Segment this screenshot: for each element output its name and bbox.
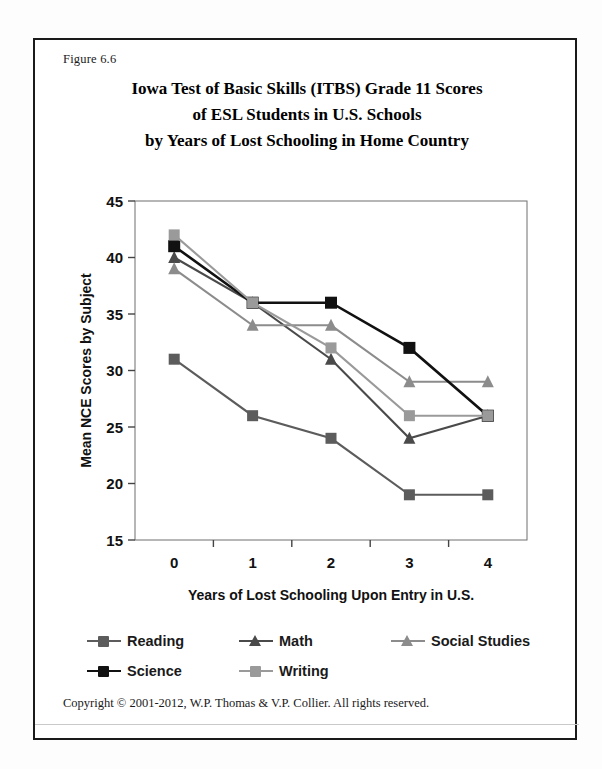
- legend-key-marker: [249, 635, 261, 646]
- legend-item-reading[interactable]: Reading: [87, 633, 239, 649]
- legend-key-square-icon: [87, 634, 121, 648]
- data-point-marker: [482, 489, 493, 500]
- legend-key-marker: [401, 635, 413, 646]
- data-point-marker: [168, 251, 180, 263]
- legend-key-triangle-icon: [391, 634, 425, 648]
- y-axis-tick-label: 15: [106, 532, 123, 549]
- data-point-marker: [404, 489, 415, 500]
- footer-divider: [35, 724, 579, 725]
- x-axis-tick-label: 4: [484, 554, 493, 571]
- legend-item-writing[interactable]: Writing: [239, 663, 391, 679]
- legend-key-marker: [98, 636, 109, 647]
- y-axis-tick-label: 20: [106, 475, 123, 492]
- legend-label: Social Studies: [431, 633, 530, 649]
- data-point-marker: [403, 342, 415, 354]
- chart-legend: ReadingMathSocial StudiesScienceWriting: [87, 626, 557, 686]
- x-axis-tick-label: 0: [170, 554, 178, 571]
- series-line: [174, 359, 488, 495]
- legend-label: Science: [127, 663, 182, 679]
- legend-item-social-studies[interactable]: Social Studies: [391, 633, 557, 649]
- series-layer: [168, 229, 494, 500]
- data-point-marker: [169, 354, 180, 365]
- series-reading: [169, 354, 494, 501]
- legend-label: Writing: [279, 663, 329, 679]
- x-axis-title: Years of Lost Schooling Upon Entry in U.…: [188, 587, 474, 603]
- series-science: [168, 240, 494, 422]
- data-point-marker: [325, 297, 337, 309]
- y-axis-tick-label: 45: [106, 193, 123, 210]
- data-point-marker: [169, 229, 180, 240]
- data-point-marker: [247, 297, 258, 308]
- y-axis-tick-label: 30: [106, 362, 123, 379]
- data-point-marker: [168, 240, 180, 252]
- data-point-marker: [247, 410, 258, 421]
- data-point-marker: [168, 262, 180, 274]
- legend-label: Reading: [127, 633, 184, 649]
- legend-key-marker: [250, 666, 261, 677]
- data-point-marker: [404, 410, 415, 421]
- y-axis-title: Mean NCE Scores by Subject: [78, 273, 94, 468]
- data-point-marker: [325, 353, 337, 365]
- legend-item-math[interactable]: Math: [239, 633, 391, 649]
- legend-key-triangle-icon: [239, 634, 273, 648]
- copyright-note: Copyright © 2001-2012, W.P. Thomas & V.P…: [63, 696, 429, 711]
- legend-label: Math: [279, 633, 313, 649]
- data-point-marker: [482, 410, 493, 421]
- page-canvas: Figure 6.6 Iowa Test of Basic Skills (IT…: [0, 0, 602, 769]
- y-axis-tick-label: 40: [106, 249, 123, 266]
- series-line: [174, 246, 488, 416]
- legend-key-square-icon: [239, 664, 273, 678]
- y-axis-tick-label: 25: [106, 419, 123, 436]
- legend-key-marker: [98, 666, 109, 677]
- x-axis-tick-label: 3: [405, 554, 413, 571]
- figure-frame: Figure 6.6 Iowa Test of Basic Skills (IT…: [33, 38, 577, 740]
- legend-key-square-icon: [87, 664, 121, 678]
- x-axis-tick-label: 2: [327, 554, 335, 571]
- axis-label-layer: 1520253035404501234Years of Lost Schooli…: [78, 193, 493, 604]
- x-axis-tick-label: 1: [248, 554, 256, 571]
- y-axis-tick-label: 35: [106, 306, 123, 323]
- data-point-marker: [326, 342, 337, 353]
- legend-item-science[interactable]: Science: [87, 663, 239, 679]
- data-point-marker: [326, 433, 337, 444]
